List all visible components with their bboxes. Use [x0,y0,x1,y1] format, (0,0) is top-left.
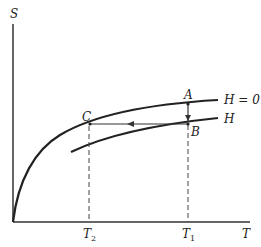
point-b-label: B [190,125,200,139]
t-axis-label: T [242,227,251,241]
t2-label: T2 [83,227,96,243]
curve-h-label: H [223,112,235,126]
arrowhead-down-icon [185,115,191,121]
curve-h-zero-label: H = 0 [223,93,260,107]
t1-label: T1 [182,227,195,243]
entropy-temperature-diagram: S T H = 0 H A B C T2 T1 [0,0,261,247]
point-b [186,122,189,125]
point-a-label: A [183,88,193,102]
point-a [186,102,189,105]
point-c-label: C [82,110,91,124]
arrowhead-left-icon [127,121,134,127]
s-axis-label: S [10,7,18,21]
